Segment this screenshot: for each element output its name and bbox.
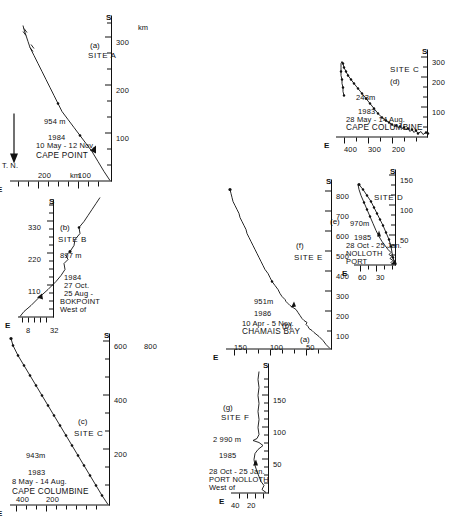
panel-a-trace	[6, 5, 130, 191]
panel-a: E S km km 100 200 100 200 300 CAPE POINT…	[6, 5, 126, 191]
panel-b-trace	[8, 187, 120, 347]
panel-c-axis-end-e: E	[0, 509, 2, 517]
panel-a-x-unit: km	[138, 23, 148, 31]
panel-f: E S 50 100 150 100 200 300 400 500 600 7…	[222, 167, 346, 359]
panel-e-axis-end-e: E	[342, 269, 347, 277]
panel-f-trace	[222, 167, 346, 359]
panel-c-xtick-800: 800	[144, 342, 157, 350]
panel-f-axis-end-e: E	[213, 353, 218, 361]
panel-g: E S 20 40 50 100 150 West of PORT NOLLOT…	[225, 339, 325, 509]
panel-c: E S 200 400 200 400 600 800 CAPE COLUMBI…	[6, 327, 118, 513]
panel-d: E S 200 300 400 100 200 300 CAPE COLUMBI…	[330, 0, 460, 149]
panel-c-trace	[6, 327, 118, 513]
panel-d-axis-end-e: E	[324, 141, 329, 149]
panel-b: E S 8 32 110 220 330 West of BOKPOINT 25…	[8, 187, 120, 347]
panel-a-axis-end-e: E	[0, 185, 2, 193]
panel-g-trace	[225, 339, 325, 509]
figure-root: E S 200 400 200 400 600 800 CAPE COLUMBI…	[0, 0, 466, 527]
panel-g-axis-end-e: E	[219, 497, 224, 505]
panel-d-trace	[330, 0, 460, 149]
panel-e-id: (e)	[330, 217, 340, 225]
